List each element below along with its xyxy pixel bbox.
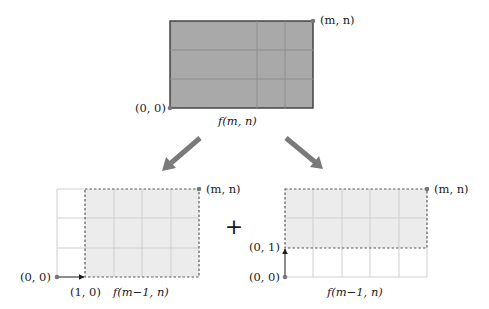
recursion-diagram: (m, n) (0, 0) f(m, n) + (m, n) (0, 0) (1…	[0, 0, 489, 309]
bl-label-origin: (0, 0)	[20, 270, 51, 284]
br-label-step: (0, 1)	[249, 240, 280, 254]
br-caption: f(m−1, n)	[326, 285, 383, 299]
top-caption: f(m, n)	[217, 114, 257, 128]
br-origin-point	[283, 275, 288, 280]
bl-corner-point-mn	[197, 187, 202, 192]
bl-label-step: (1, 0)	[70, 285, 101, 299]
corner-point-mn	[311, 19, 316, 24]
top-label-origin: (0, 0)	[135, 101, 166, 115]
top-label-mn: (m, n)	[320, 13, 355, 27]
top-grid	[168, 19, 316, 111]
corner-point-origin	[168, 106, 173, 111]
arrow-down-left-icon	[162, 138, 200, 171]
full-region	[170, 21, 313, 108]
plus-operator: +	[225, 214, 243, 239]
bl-origin-point	[55, 275, 60, 280]
bl-caption: f(m−1, n)	[112, 285, 169, 299]
bl-label-mn: (m, n)	[206, 182, 241, 196]
arrow-down-right-icon	[286, 138, 323, 169]
bottom-left-grid	[55, 187, 202, 280]
br-label-origin: (0, 0)	[249, 270, 280, 284]
br-label-mn: (m, n)	[434, 182, 469, 196]
br-corner-point-mn	[425, 187, 430, 192]
bottom-right-grid	[283, 187, 430, 280]
